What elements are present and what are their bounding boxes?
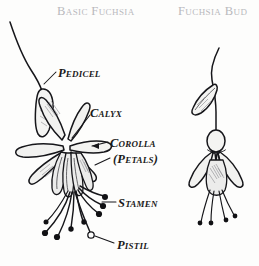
bud-stamen-anther-4 [233, 214, 238, 219]
stamen-anther-3 [68, 226, 73, 231]
label-calyx: Calyx [90, 106, 122, 121]
pedicel-stem [10, 22, 42, 91]
bud-stamen-anther-2 [209, 221, 214, 226]
label-stamen: Stamen [118, 196, 158, 211]
sepal-upper-right [68, 103, 90, 141]
bud-stamen-filament-1 [201, 190, 210, 222]
label-petals: (Petals) [113, 152, 158, 167]
bud-stamen-anther-1 [198, 221, 203, 226]
stamen-anther-2 [54, 234, 60, 240]
bud-stamen-filament-4 [222, 190, 234, 215]
basic-fuchsia-figure [10, 22, 116, 243]
stamen-anther-6 [100, 203, 106, 209]
illustration-canvas [0, 0, 259, 266]
leader-pistil [95, 236, 114, 243]
figure-title-fuchsia-bud: Fuchsia Bud [178, 4, 247, 19]
figure-title-basic-fuchsia: Basic Fuchsia [57, 4, 135, 19]
stamen-filament-1 [46, 192, 70, 232]
label-corolla: Corolla [110, 136, 156, 151]
bud-stamen-filament-2 [211, 191, 214, 222]
stamen-anther-5 [96, 211, 102, 217]
stamen-anther-1 [42, 230, 48, 236]
fuchsia-bud-figure [189, 48, 243, 225]
bud-ovary [207, 130, 225, 152]
pistil-stigma [88, 232, 94, 238]
label-pistil: Pistil [117, 238, 149, 253]
bud-stamen-anther-3 [224, 218, 229, 223]
leader-pedicel [44, 72, 56, 84]
label-pedicel: Pedicel [58, 66, 101, 81]
leader-petals [95, 158, 110, 165]
fuchsia-anatomy-diagram: Basic Fuchsia Fuchsia Bud Pedicel Calyx … [0, 0, 259, 266]
stamen-anther-7 [102, 194, 108, 200]
stamen-anther-8 [44, 220, 49, 225]
